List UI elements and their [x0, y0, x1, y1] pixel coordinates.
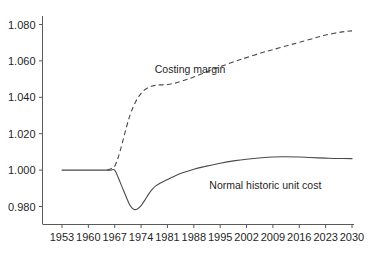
y-tick-label: 1.060 — [8, 55, 36, 67]
x-tick-label: 1988 — [182, 231, 206, 243]
y-tick-label: 0.980 — [8, 201, 36, 213]
y-tick-label: 1.080 — [8, 19, 36, 31]
x-tick-label: 2002 — [234, 231, 258, 243]
x-tick-label: 1981 — [155, 231, 179, 243]
x-tick-label: 1995 — [208, 231, 232, 243]
x-tick-label: 2023 — [313, 231, 337, 243]
y-tick-label: 1.000 — [8, 164, 36, 176]
costing-margin-curve — [107, 31, 352, 170]
chart-container: 0.9801.0001.0201.0401.0601.080 195319601… — [0, 0, 374, 261]
costing-margin-label: Costing margin — [155, 63, 226, 75]
x-tick-label: 1974 — [129, 231, 153, 243]
x-tick-label: 2016 — [287, 231, 311, 243]
x-tick-label: 2030 — [340, 231, 364, 243]
x-tick-label: 1953 — [50, 231, 74, 243]
y-tick-label: 1.020 — [8, 128, 36, 140]
line-chart: 0.9801.0001.0201.0401.0601.080 195319601… — [0, 0, 374, 261]
x-tick-label: 2009 — [261, 231, 285, 243]
x-tick-label: 1960 — [76, 231, 100, 243]
normal-historic-unit-cost-label: Normal historic unit cost — [209, 179, 321, 191]
series-annotations: Costing marginNormal historic unit cost — [155, 63, 322, 191]
y-axis-ticks: 0.9801.0001.0201.0401.0601.080 — [8, 19, 43, 213]
x-axis-ticks: 1953196019671974198119881995200220092016… — [50, 225, 364, 243]
x-tick-label: 1967 — [102, 231, 126, 243]
y-tick-label: 1.040 — [8, 91, 36, 103]
